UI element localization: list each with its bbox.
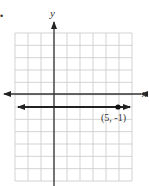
- coordinate-graph: • x y (5, -1): [0, 0, 149, 186]
- bullet-marker: •: [0, 11, 3, 21]
- point-label: (5, -1): [101, 112, 126, 124]
- x-axis-label: x: [141, 87, 147, 99]
- point-5-minus-1: [115, 104, 120, 109]
- y-axis-label: y: [49, 7, 55, 19]
